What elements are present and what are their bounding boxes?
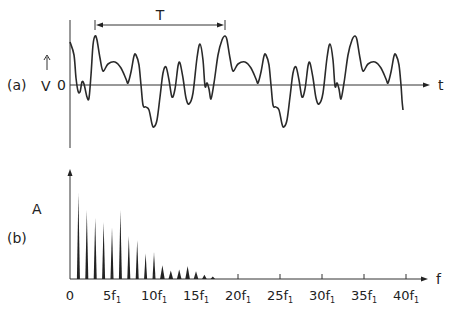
harmonic-line xyxy=(111,227,114,279)
figure: (a) V 0 t T (b) A f 05f110f115f120f125f1… xyxy=(0,0,449,315)
period-left-arrow-icon xyxy=(96,23,103,28)
tick-label: 5f1 xyxy=(103,288,121,305)
zero-label: 0 xyxy=(57,77,66,93)
period-right-arrow-icon xyxy=(217,23,224,28)
harmonic-line xyxy=(136,240,139,279)
period-marker: T xyxy=(95,7,225,30)
harmonic-line xyxy=(77,193,80,279)
harmonic-line xyxy=(211,276,216,279)
tick-label: 0 xyxy=(66,288,74,303)
harmonic-line xyxy=(144,253,147,279)
panel-a-label: (a) xyxy=(7,77,27,93)
tick-label: 40f1 xyxy=(393,288,419,305)
voltage-waveform xyxy=(70,36,403,127)
x-label-f: f xyxy=(436,271,442,287)
spectrum-lines xyxy=(77,193,215,279)
y-label-v: V xyxy=(41,78,51,94)
y-label-a: A xyxy=(32,201,42,217)
harmonic-line xyxy=(177,270,182,280)
tick-label: 10f1 xyxy=(141,288,167,305)
harmonic-line xyxy=(102,222,105,279)
tick-label: 30f1 xyxy=(309,288,335,305)
tick-label: 25f1 xyxy=(267,288,293,305)
panel-b: (b) A f 05f110f115f120f125f130f135f140f1 xyxy=(7,169,442,305)
harmonic-line xyxy=(202,275,207,279)
f-arrow-icon xyxy=(421,277,428,282)
harmonic-line xyxy=(160,265,165,279)
panel-a: (a) V 0 t T xyxy=(7,7,444,148)
tick-label: 35f1 xyxy=(351,288,377,305)
harmonic-line xyxy=(85,210,88,279)
harmonic-line xyxy=(185,266,190,279)
tick-label: 15f1 xyxy=(183,288,209,305)
a-arrow-icon xyxy=(68,169,73,176)
harmonic-line xyxy=(127,236,130,279)
harmonic-line xyxy=(94,218,97,279)
panel-b-label: (b) xyxy=(7,230,27,246)
t-arrow-icon xyxy=(423,83,430,88)
tick-label: 20f1 xyxy=(225,288,251,305)
harmonic-line xyxy=(169,270,174,279)
period-label: T xyxy=(155,7,165,23)
x-label-t: t xyxy=(438,77,444,93)
harmonic-line xyxy=(119,210,122,279)
